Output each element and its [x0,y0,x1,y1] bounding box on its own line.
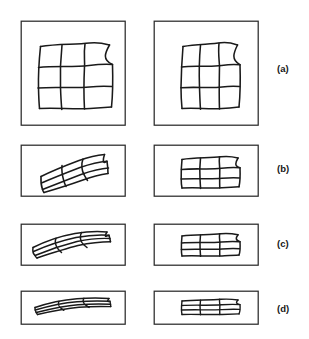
panel-b-right [152,143,262,200]
panel-a-right [152,19,262,129]
row-label-c: (c) [277,239,289,249]
panel-b-left [19,143,129,200]
frame-a-left [21,21,125,125]
frame-a-right [154,21,258,125]
row-label-a: (a) [277,64,289,74]
frame-c-right [154,224,258,265]
panel-a-left [19,19,129,129]
row-label-b: (b) [277,164,289,174]
panel-c-left [19,222,129,269]
figure-panel-grid: (a) [0,0,309,339]
panel-c-right [152,222,262,269]
panel-d-right [152,289,262,328]
frame-d-right [154,291,258,324]
row-label-d: (d) [277,304,289,314]
frame-c-left [21,224,125,265]
panel-d-left [19,289,129,328]
